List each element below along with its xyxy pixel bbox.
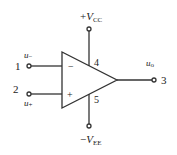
op-amp-svg: +VCC −VEE 1 u− − 2 u+ + 4 5 uo 3 <box>0 0 177 155</box>
pin-4-label: 4 <box>94 57 99 68</box>
terminal-3 <box>152 78 156 82</box>
pin-2-label: 2 <box>13 83 19 95</box>
u-plus-label: u+ <box>24 98 33 109</box>
terminal-2 <box>27 92 31 96</box>
pin-5-label: 5 <box>94 94 99 105</box>
terminal-vee <box>87 124 91 128</box>
u-out-label: uo <box>146 58 155 69</box>
inverting-sign: − <box>68 61 74 72</box>
op-amp-diagram: +VCC −VEE 1 u− − 2 u+ + 4 5 uo 3 <box>0 0 177 155</box>
u-minus-label: u− <box>24 50 33 61</box>
terminal-vcc <box>87 27 91 31</box>
vee-label: −VEE <box>80 133 102 147</box>
pin-1-label: 1 <box>15 60 21 72</box>
terminal-1 <box>27 64 31 68</box>
pin-3-label: 3 <box>161 74 167 86</box>
vcc-label: +VCC <box>80 10 103 24</box>
noninverting-sign: + <box>67 89 73 100</box>
